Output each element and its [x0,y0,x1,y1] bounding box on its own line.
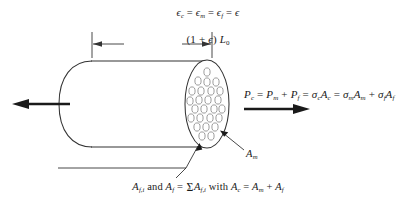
leader-line-matrix-area [220,131,244,151]
composite-cylinder-diagram [0,0,416,208]
fiber-dot [189,87,195,95]
fiber-dot [219,105,225,113]
fiber-area-caption-text: Af,i and Af = ΣiAf,i with Ac = Am + Af [132,181,283,192]
fiber-dot [188,114,194,122]
fiber-dot [197,114,203,122]
fiber-dot [198,87,204,95]
fiber-dot [205,96,211,104]
force-balance-equation: Pc = Pm + Pf = σcAc = σmAm + σfAf [244,88,394,102]
leader-line-fiber-branch [176,168,186,178]
leader-line-fiber-diagonal [186,146,198,168]
fiber-dot [211,105,217,113]
fiber-dot [194,123,200,131]
fiber-dot [213,78,219,86]
fiber-dot [187,97,193,105]
fiber-dot [195,77,201,85]
length-dimension-label: (1 + ϵ) L0 [0,33,416,47]
load-arrow-right [244,104,310,114]
fiber-dot [217,87,223,95]
fiber-dot [208,87,214,95]
fiber-dot [196,96,202,104]
fiber-dot [212,123,218,131]
fiber-dot [203,123,209,131]
leader-line-matrix-shaft [223,133,244,150]
fiber-dot [204,68,210,76]
load-arrowhead-right [293,104,310,114]
fiber-dot [208,132,214,140]
strain-equation-text: ϵc = ϵm = ϵf = ϵ [177,7,240,18]
fiber-dot [201,105,207,113]
fiber-dot [207,114,213,122]
fiber-dot [192,105,198,113]
leader-line-fiber-caption [58,143,202,178]
fiber-area-caption: Af,i and Af = ΣiAf,i with Ac = Am + Af [0,181,416,194]
matrix-area-label: Am [246,148,257,160]
length-dimension-text: (1 + ϵ) L0 [186,33,229,45]
fiber-dot [216,114,222,122]
fiber-dot [215,96,221,104]
strain-equation: ϵc = ϵm = ϵf = ϵ [0,7,416,19]
load-arrowhead-left [12,99,29,109]
fiber-dot [199,132,205,140]
fiber-dot [204,78,210,86]
figure-canvas: ϵc = ϵm = ϵf = ϵ (1 + ϵ) L0 Pc = Pm + Pf… [0,0,416,208]
matrix-area-text: Am [246,148,257,159]
force-balance-text: Pc = Pm + Pf = σcAc = σmAm + σfAf [244,88,394,100]
